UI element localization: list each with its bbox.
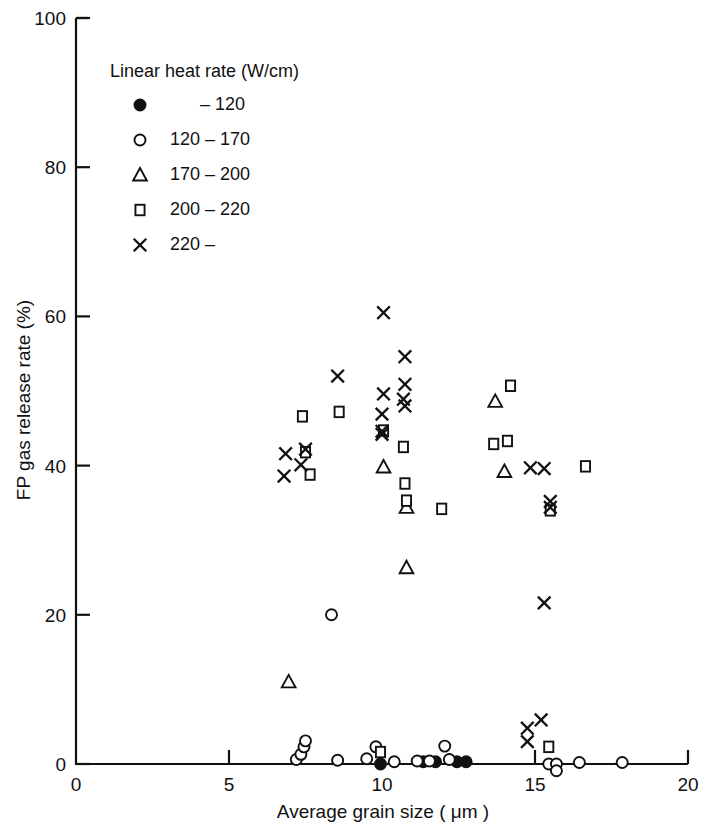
y-tick-label: 40: [45, 456, 66, 477]
open-square-glyph: [135, 205, 144, 216]
data-point: [376, 747, 385, 758]
data-point: [538, 597, 551, 610]
data-point: [574, 757, 585, 768]
open-triangle-glyph: [488, 394, 502, 407]
data-point: [506, 381, 515, 392]
open-square-glyph: [489, 439, 498, 450]
legend-entry-label: 220 –: [170, 234, 215, 254]
open-triangle-glyph: [133, 168, 147, 181]
data-point: [335, 407, 344, 418]
series-3: [298, 381, 590, 758]
y-tick-label: 80: [45, 157, 66, 178]
open-square-glyph: [503, 436, 512, 447]
filled-circle-glyph: [461, 756, 472, 767]
open-circle-glyph: [134, 134, 145, 145]
y-tick-label: 100: [34, 8, 66, 29]
legend-entry-label: 200 – 220: [170, 199, 250, 219]
series-1: [291, 609, 628, 776]
x-axis-title: Average grain size ( μm ): [277, 801, 489, 822]
data-point: [488, 394, 502, 407]
data-point: [399, 442, 408, 453]
legend: Linear heat rate (W/cm) – 120120 – 17017…: [110, 61, 299, 254]
data-point: [400, 561, 414, 574]
legend-entries: – 120120 – 170170 – 200200 – 220220 –: [133, 94, 250, 254]
open-square-glyph: [298, 411, 307, 422]
data-point: [295, 459, 308, 472]
data-point: [399, 350, 412, 363]
y-axis-ticks: 020406080100: [34, 8, 90, 775]
open-square-glyph: [544, 742, 553, 753]
filled-circle-glyph: [134, 99, 145, 110]
data-point: [377, 460, 391, 473]
data-point: [581, 461, 590, 472]
x-tick-label: 0: [71, 774, 82, 795]
legend-marker-open-circle: [134, 134, 145, 145]
series-2: [282, 394, 511, 687]
data-point: [535, 714, 548, 727]
legend-entry: 200 – 220: [135, 199, 250, 219]
legend-marker-open-square: [135, 205, 144, 216]
data-point: [400, 478, 409, 489]
data-point: [377, 306, 390, 319]
x-tick-label: 10: [371, 774, 392, 795]
data-point: [521, 722, 534, 735]
open-circle-glyph: [444, 754, 455, 765]
data-point: [282, 675, 296, 688]
data-point: [437, 504, 446, 515]
data-point: [326, 609, 337, 620]
data-point: [399, 378, 412, 391]
legend-marker-cross: [134, 239, 147, 252]
data-point: [279, 447, 292, 460]
open-square-glyph: [400, 478, 409, 489]
open-circle-glyph: [326, 609, 337, 620]
legend-entry-label: 120 – 170: [170, 129, 250, 149]
data-point: [300, 735, 311, 746]
scatter-plot-svg: 020406080100 05101520 Average grain size…: [0, 0, 714, 832]
x-tick-label: 5: [224, 774, 235, 795]
open-circle-glyph: [389, 756, 400, 767]
open-triangle-glyph: [498, 465, 512, 478]
series-4: [278, 306, 557, 748]
legend-entry: 170 – 200: [133, 164, 250, 184]
data-point: [551, 765, 562, 776]
open-triangle-glyph: [282, 675, 296, 688]
data-point: [617, 757, 628, 768]
data-point: [503, 436, 512, 447]
filled-circle-glyph: [375, 758, 386, 769]
data-point: [331, 370, 344, 383]
data-point: [489, 439, 498, 450]
data-point-layer: [278, 306, 628, 776]
data-point: [278, 470, 291, 483]
y-axis-title: FP gas release rate (%): [13, 300, 34, 500]
open-circle-glyph: [300, 735, 311, 746]
data-point: [521, 735, 534, 748]
legend-marker-filled-circle: [134, 99, 145, 110]
data-point: [389, 756, 400, 767]
open-square-glyph: [402, 495, 411, 506]
data-point: [444, 754, 455, 765]
open-circle-glyph: [574, 757, 585, 768]
legend-entry: – 120: [134, 94, 245, 114]
open-circle-glyph: [424, 755, 435, 766]
data-point: [412, 755, 423, 766]
data-point: [376, 408, 389, 421]
legend-entry: 220 –: [134, 234, 215, 254]
data-point: [298, 411, 307, 422]
open-triangle-glyph: [400, 561, 414, 574]
data-point: [377, 388, 390, 401]
x-tick-label: 20: [677, 774, 698, 795]
open-circle-glyph: [332, 755, 343, 766]
open-triangle-glyph: [377, 460, 391, 473]
y-tick-label: 20: [45, 605, 66, 626]
open-square-glyph: [376, 747, 385, 758]
data-point: [498, 465, 512, 478]
y-tick-label: 0: [55, 754, 66, 775]
x-tick-label: 15: [524, 774, 545, 795]
open-circle-glyph: [412, 755, 423, 766]
chart-figure: 020406080100 05101520 Average grain size…: [0, 0, 714, 832]
data-point: [439, 741, 450, 752]
open-square-glyph: [399, 442, 408, 453]
open-square-glyph: [506, 381, 515, 392]
open-circle-glyph: [361, 753, 372, 764]
data-point: [524, 462, 537, 475]
